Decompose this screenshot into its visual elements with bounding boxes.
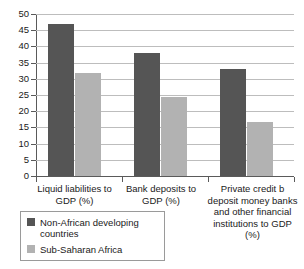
y-axis-tick-label: 25 [3,90,29,100]
y-axis-tick-mark [31,95,36,96]
category-tick-mark [208,177,209,182]
y-axis-tick-mark [31,111,36,112]
y-axis-tick-label: 45 [3,25,29,35]
y-axis-tick-label: 10 [3,139,29,149]
y-axis-tick-mark [31,30,36,31]
y-axis-tick-label: 35 [3,58,29,68]
bar-non-african-developing [220,69,246,176]
bar-chart-figure: 50454035302520151050 Liquid liabilities … [0,0,304,269]
y-axis-tick-label: 5 [3,155,29,165]
y-axis-tick-mark [31,176,36,177]
bar-sub-saharan-africa [247,122,273,176]
y-axis-tick-label: 30 [3,74,29,84]
y-axis-tick-mark [31,127,36,128]
y-axis-tick-label: 15 [3,122,29,132]
legend-item-non-african-developing-countries: Non-African developing countries [27,217,158,239]
category-tick-mark [36,177,37,182]
category-tick-mark [122,177,123,182]
legend-swatch-icon [27,245,35,253]
legend-item-sub-saharan-africa: Sub-Saharan Africa [27,244,158,255]
y-axis-tick-labels: 50454035302520151050 [0,0,29,190]
y-axis-tick-label: 40 [3,41,29,51]
x-axis-label-bank-deposits: Bank deposits to GDP (%) [117,183,205,206]
y-axis-tick-label: 0 [3,171,29,181]
y-axis-tick-label: 50 [3,9,29,19]
y-axis-tick-mark [31,14,36,15]
bar-group [36,14,294,176]
legend-item-label: Non-African developing countries [40,217,158,239]
legend-swatch-icon [27,218,35,226]
x-axis-label-liquid-liabilities: Liquid liabilities to GDP (%) [27,183,122,206]
category-tick-mark [294,177,295,182]
plot-area [36,14,294,176]
x-axis-label-private-credit: Private credit b deposit money banks and… [205,183,300,241]
y-axis-tick-mark [31,79,36,80]
y-axis-tick-mark [31,63,36,64]
chart-legend: Non-African developing countries Sub-Sah… [20,211,165,261]
gridline [36,176,294,177]
legend-item-label: Sub-Saharan Africa [40,244,122,255]
y-axis-tick-mark [31,160,36,161]
y-axis-tick-mark [31,46,36,47]
y-axis-tick-label: 20 [3,106,29,116]
y-axis-tick-mark [31,144,36,145]
